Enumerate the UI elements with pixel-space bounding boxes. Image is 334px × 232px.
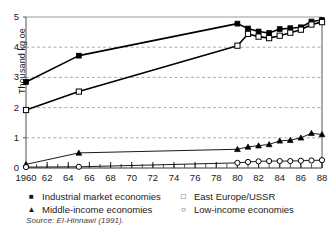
open-circle-icon: ○ xyxy=(178,205,189,214)
x-axis-tick-label: 80 xyxy=(229,172,245,183)
legend-item-east-europe-ussr: □ East Europe/USSR xyxy=(178,191,324,202)
filled-triangle-icon: ▲ xyxy=(26,205,37,214)
series-2 xyxy=(23,20,324,113)
x-axis-tick-label: 76 xyxy=(187,172,203,183)
y-axis-tick-label: 4 xyxy=(3,41,19,52)
legend-item-low-income-economies: ○ Low-income economies xyxy=(178,204,324,215)
legend-row-1: ■ Industrial market economies □ East Eur… xyxy=(26,191,326,202)
legend-label: Industrial market economies xyxy=(42,191,161,202)
legend-label: East Europe/USSR xyxy=(194,191,275,202)
legend-label: Low-income economies xyxy=(194,204,294,215)
x-axis-tick-label: 64 xyxy=(60,172,76,183)
x-axis-tick-label: 78 xyxy=(208,172,224,183)
legend-item-middle-income-economies: ▲ Middle-income economies xyxy=(26,204,178,215)
legend-item-industrial-market-economies: ■ Industrial market economies xyxy=(26,191,178,202)
series-1 xyxy=(24,18,325,85)
y-axis-tick-label: 1 xyxy=(3,132,19,143)
filled-square-icon: ■ xyxy=(26,192,37,201)
x-axis-tick-label: 84 xyxy=(272,172,288,183)
x-axis-tick-label: 68 xyxy=(103,172,119,183)
legend-row-2: ▲ Middle-income economies ○ Low-income e… xyxy=(26,204,326,215)
legend-label: Middle-income economies xyxy=(42,204,152,215)
source-note: Source: El-Hinnawi (1991). xyxy=(26,216,124,225)
x-axis-tick-label: 1960 xyxy=(13,172,39,183)
x-axis-tick-label: 74 xyxy=(166,172,182,183)
x-axis-tick-label: 70 xyxy=(124,172,140,183)
x-axis-tick-label: 62 xyxy=(39,172,55,183)
chart-legend: ■ Industrial market economies □ East Eur… xyxy=(26,191,326,217)
x-axis-tick-label: 82 xyxy=(251,172,267,183)
x-axis-tick-label: 72 xyxy=(145,172,161,183)
open-square-icon: □ xyxy=(178,192,189,201)
y-axis-tick-label: 2 xyxy=(3,102,19,113)
y-axis-tick-label: 3 xyxy=(3,71,19,82)
figure-container: Thousand kg oe ■ Industrial market econo… xyxy=(0,0,334,232)
x-axis-tick-label: 88 xyxy=(314,172,330,183)
y-axis-tick-label: 5 xyxy=(3,11,19,22)
x-axis-tick-label: 66 xyxy=(81,172,97,183)
x-axis-tick-label: 86 xyxy=(293,172,309,183)
